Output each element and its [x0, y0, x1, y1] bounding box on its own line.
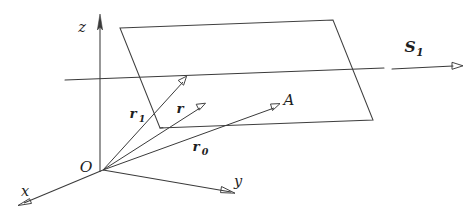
y-axis	[103, 170, 235, 193]
plane-outline	[120, 20, 373, 128]
vector-r1-label-sub: 1	[139, 113, 146, 124]
x-axis-label: x	[21, 183, 29, 199]
vector-r0-label-sub: 0	[202, 146, 209, 157]
x-axis-arrowhead-icon	[18, 199, 32, 206]
vector-r0-arrowhead-icon	[271, 104, 281, 111]
diagram-canvas: z x y O r 1 r r 0 A S 1	[0, 0, 475, 221]
y-axis-label: y	[233, 173, 243, 189]
plane-parallelogram	[120, 20, 373, 128]
vector-r0-label: r 0	[192, 138, 208, 157]
vector-r0-label-base: r	[192, 138, 200, 154]
s1-direction-arrow	[392, 62, 463, 69]
intersection-line	[65, 68, 384, 80]
vector-r-label-base: r	[176, 100, 184, 116]
surface-s1-label-base: S	[404, 37, 415, 56]
s1-arrowhead-icon	[452, 62, 463, 69]
vector-diagram-svg: z x y O r 1 r r 0 A S 1	[0, 0, 475, 221]
surface-s1-label: S 1	[404, 37, 423, 58]
s1-arrow-shaft	[392, 66, 453, 69]
origin-label: O	[80, 158, 93, 176]
vector-r1-label: r 1	[129, 105, 145, 124]
y-axis-arrowhead-icon	[221, 187, 236, 194]
intersection-line-group	[65, 68, 384, 80]
vector-r-label: r	[176, 100, 184, 116]
surface-s1-label-sub: 1	[416, 46, 423, 58]
y-axis-line	[103, 170, 231, 192]
vector-r1-arrowhead-icon	[178, 76, 186, 85]
z-axis	[97, 14, 102, 172]
vector-r1-label-base: r	[129, 105, 137, 121]
point-a-label: A	[282, 91, 295, 109]
z-axis-label: z	[77, 19, 86, 35]
